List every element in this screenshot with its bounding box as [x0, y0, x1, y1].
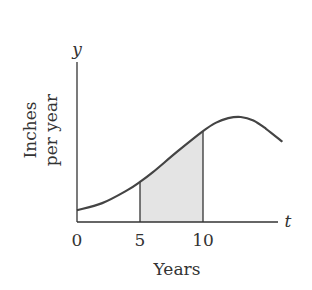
x-tick-label: 5 [135, 230, 146, 250]
x-axis-var: t [285, 211, 292, 231]
y-axis-label-line2: per year [41, 93, 61, 166]
x-tick-label: 0 [72, 230, 83, 250]
shaded-area [140, 131, 203, 222]
x-axis-label: Years [153, 259, 201, 279]
x-tick-label: 10 [192, 230, 214, 250]
y-axis-label-line1: Inches [20, 102, 40, 159]
chart: y t 0510 Years Inches per year [0, 0, 312, 290]
y-axis-var: y [71, 39, 82, 59]
